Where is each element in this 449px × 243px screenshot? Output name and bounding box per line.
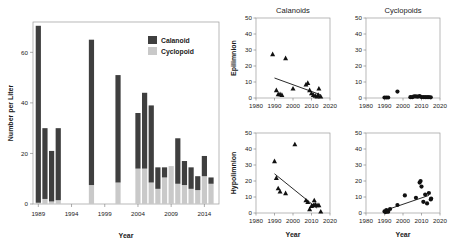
bar-group [149, 105, 154, 204]
bar-group [42, 128, 47, 204]
cyclopoids-hypolimnion-y-tick-label: 10 [355, 193, 362, 200]
bar-group [189, 167, 194, 204]
cyclopoids-epilimnion-y-tick-label: 0 [359, 94, 363, 101]
cyclopoids-epilimnion-data-point [386, 95, 390, 99]
bar-segment-calanoid [162, 167, 167, 177]
bar-segment-calanoid [208, 177, 213, 183]
cyclopoids-epilimnion-x-tick-label: 1980 [359, 102, 373, 109]
bar-group [195, 176, 200, 204]
calanoids-hypolimnion-x-tick-label: 2020 [323, 217, 337, 224]
bar-segment-calanoid [56, 128, 61, 200]
calanoids-hypolimnion-x-tick-label: 1990 [268, 217, 282, 224]
bar-group [49, 151, 54, 204]
bar-segment-cyclopoid [135, 169, 140, 204]
bar-segment-cyclopoid [149, 183, 154, 204]
calanoids-epilimnion-x-tick-label: 2010 [305, 102, 319, 109]
bar-y-tick-label: 20 [21, 150, 28, 157]
bar-segment-calanoid [195, 176, 200, 190]
bar-x-tick-label: 1999 [98, 210, 112, 217]
bar-segment-cyclopoid [162, 177, 167, 204]
calanoids-hypolimnion-y-tick-label: 0 [249, 209, 253, 216]
bar-segment-cyclopoid [49, 201, 54, 204]
cyclopoids-hypolimnion-data-point [421, 200, 425, 204]
bar-x-tick-label: 2004 [131, 210, 145, 217]
calanoids-epilimnion-x-tick-label: 2000 [286, 102, 300, 109]
cyclopoids-hypolimnion-y-tick-label: 30 [355, 161, 362, 168]
bar-x-tick-label: 2014 [198, 210, 212, 217]
bar-segment-calanoid [49, 151, 54, 202]
cyclopoids-epilimnion-y-tick-label: 40 [355, 30, 362, 37]
figure-svg: 0204060198919941999200420092014Number pe… [0, 0, 449, 243]
bar-segment-cyclopoid [169, 166, 174, 204]
bar-x-tick-label: 1989 [31, 210, 45, 217]
cyclopoids-hypolimnion-x-axis-title: Year [396, 231, 411, 238]
cyclopoids-hypolimnion-data-point [419, 185, 423, 189]
legend-swatch [148, 36, 157, 44]
bar-segment-calanoid [36, 26, 41, 203]
bar-segment-cyclopoid [115, 183, 120, 204]
cyclopoids-epilimnion-x-tick-label: 1990 [378, 102, 392, 109]
bar-group [202, 156, 207, 204]
bar-segment-calanoid [189, 167, 194, 188]
cyclopoids-hypolimnion-frame [366, 133, 440, 213]
bar-x-tick-label: 1994 [65, 210, 79, 217]
calanoids-epilimnion-y-axis-title: Epilimnion [230, 40, 238, 76]
cyclopoids-hypolimnion-data-point [388, 207, 392, 211]
bar-y-axis-title: Number per Liter [7, 85, 15, 142]
cyclopoids-hypolimnion-data-point [427, 191, 431, 195]
cyclopoids-hypolimnion-data-point [429, 197, 433, 201]
bar-y-tick-label: 0 [25, 200, 29, 207]
calanoids-hypolimnion-y-tick-label: 50 [245, 129, 252, 136]
bar-y-tick-label: 40 [21, 99, 28, 106]
bar-segment-calanoid [175, 138, 180, 184]
calanoids-hypolimnion-y-tick-label: 30 [245, 161, 252, 168]
bar-segment-cyclopoid [36, 203, 41, 204]
bar-segment-calanoid [149, 105, 154, 182]
bar-group [169, 166, 174, 204]
cyclopoids-epilimnion-data-point [395, 90, 399, 94]
bar-segment-calanoid [42, 128, 47, 199]
cyclopoids-hypolimnion-data-point [425, 201, 429, 205]
cyclopoids-epilimnion-y-tick-label: 30 [355, 46, 362, 53]
bar-x-tick-label: 2009 [164, 210, 178, 217]
bar-group [155, 167, 160, 204]
bar-group [56, 128, 61, 204]
calanoids-epilimnion-title: Calanoids [276, 6, 310, 15]
cyclopoids-hypolimnion-data-point [423, 193, 427, 197]
cyclopoids-hypolimnion-y-tick-label: 0 [359, 209, 363, 216]
calanoids-epilimnion-panel: 0102030405019801990200020102020Calanoids… [230, 6, 337, 109]
calanoids-hypolimnion-y-tick-label: 20 [245, 177, 252, 184]
calanoids-hypolimnion-x-tick-label: 2000 [286, 217, 300, 224]
cyclopoids-epilimnion-x-tick-label: 2010 [415, 102, 429, 109]
bar-segment-cyclopoid [189, 189, 194, 204]
legend-label: Calanoid [161, 37, 190, 44]
bar-y-tick-label: 60 [21, 49, 28, 56]
bar-segment-calanoid [182, 161, 187, 185]
bar-segment-cyclopoid [175, 184, 180, 204]
cyclopoids-hypolimnion-data-point [403, 193, 407, 197]
cyclopoids-hypolimnion-data-point [395, 203, 399, 207]
calanoids-hypolimnion-y-axis-title: Hypolimnion [230, 152, 238, 194]
bar-group [175, 138, 180, 204]
bar-x-axis-title: Year [119, 232, 134, 239]
cyclopoids-hypolimnion-y-tick-label: 50 [355, 129, 362, 136]
cyclopoids-hypolimnion-x-tick-label: 1990 [378, 217, 392, 224]
bar-segment-cyclopoid [142, 169, 147, 204]
cyclopoids-epilimnion-x-tick-label: 2020 [433, 102, 447, 109]
bar-segment-calanoid [202, 156, 207, 176]
cyclopoids-hypolimnion-x-tick-label: 2010 [415, 217, 429, 224]
bar-segment-cyclopoid [195, 190, 200, 204]
bar-segment-calanoid [135, 113, 140, 169]
calanoids-epilimnion-y-tick-label: 10 [245, 78, 252, 85]
cyclopoids-hypolimnion-y-tick-label: 40 [355, 145, 362, 152]
cyclopoids-hypolimnion-x-tick-label: 1980 [359, 217, 373, 224]
bar-group [142, 93, 147, 204]
cyclopoids-epilimnion-y-tick-label: 20 [355, 62, 362, 69]
cyclopoids-epilimnion-panel: 0102030405019801990200020102020Cyclopoid… [355, 6, 447, 109]
legend-swatch [148, 47, 157, 55]
bar-segment-cyclopoid [155, 189, 160, 204]
legend-label: Cyclopoid [161, 48, 194, 56]
bar-segment-cyclopoid [202, 176, 207, 204]
bar-segment-calanoid [142, 93, 147, 169]
cyclopoids-epilimnion-y-tick-label: 10 [355, 78, 362, 85]
